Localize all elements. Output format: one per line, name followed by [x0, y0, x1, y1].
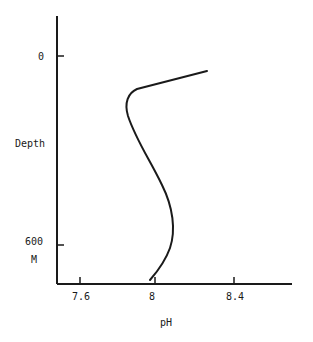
- y-tick-label-0: 0: [38, 51, 44, 62]
- x-tick-label-7-6: 7.6: [72, 291, 90, 302]
- y-axis-title: Depth: [15, 138, 45, 149]
- x-tick-label-8-4: 8.4: [226, 291, 244, 302]
- x-axis-title: pH: [160, 317, 172, 328]
- ph-depth-curve: [126, 71, 207, 280]
- chart-canvas: 0 600 M Depth 7.6 8 8.4 pH: [0, 0, 313, 342]
- y-axis-unit: M: [31, 254, 37, 265]
- x-tick-label-8: 8: [149, 291, 155, 302]
- y-tick-label-600: 600: [25, 236, 43, 247]
